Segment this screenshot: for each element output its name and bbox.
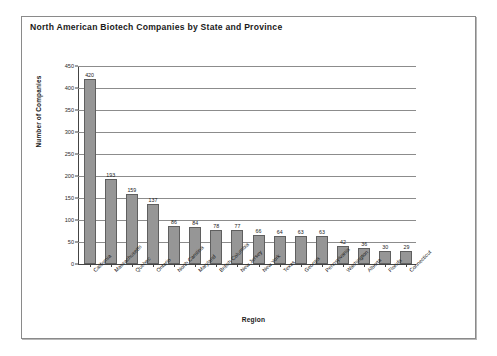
x-tick-mark bbox=[259, 264, 260, 267]
y-tick-label: 400 bbox=[65, 85, 74, 91]
bar-value-label: 420 bbox=[85, 72, 94, 78]
bar-value-label: 36 bbox=[361, 241, 367, 247]
x-tick-mark bbox=[322, 264, 323, 267]
y-tick-label: 300 bbox=[65, 129, 74, 135]
bar-slot: 86 bbox=[164, 66, 185, 264]
x-tick-mark bbox=[90, 264, 91, 267]
bar-value-label: 84 bbox=[192, 220, 198, 226]
x-tick-mark bbox=[174, 264, 175, 267]
bar-slot: 63 bbox=[311, 66, 332, 264]
bars-group: 420193159137868478776664636342363029 bbox=[79, 66, 416, 264]
x-axis-title: Region bbox=[0, 316, 497, 323]
bar-value-label: 29 bbox=[403, 244, 409, 250]
y-tick-label: 150 bbox=[65, 195, 74, 201]
bar-slot: 420 bbox=[79, 66, 100, 264]
chart-screenshot: North American Biotech Companies by Stat… bbox=[0, 0, 497, 356]
y-tick-mark bbox=[75, 198, 78, 199]
y-tick-mark bbox=[75, 110, 78, 111]
y-tick-mark bbox=[75, 66, 78, 67]
y-tick-label: 50 bbox=[68, 239, 74, 245]
bar[interactable] bbox=[295, 236, 307, 264]
chart-title: North American Biotech Companies by Stat… bbox=[30, 22, 282, 32]
y-tick-mark bbox=[75, 220, 78, 221]
y-tick-label: 350 bbox=[65, 107, 74, 113]
y-tick-mark bbox=[75, 176, 78, 177]
bar-value-label: 63 bbox=[319, 229, 325, 235]
bar-value-label: 86 bbox=[171, 219, 177, 225]
bar-slot: 30 bbox=[375, 66, 396, 264]
bar-slot: 66 bbox=[248, 66, 269, 264]
bar-slot: 137 bbox=[142, 66, 163, 264]
bar-slot: 193 bbox=[100, 66, 121, 264]
x-tick-mark bbox=[237, 264, 238, 267]
bar-slot: 42 bbox=[333, 66, 354, 264]
bar-value-label: 193 bbox=[106, 172, 115, 178]
bar-slot: 63 bbox=[290, 66, 311, 264]
bar-value-label: 30 bbox=[382, 244, 388, 250]
x-tick-mark bbox=[195, 264, 196, 267]
x-tick-mark bbox=[301, 264, 302, 267]
y-tick-mark bbox=[75, 242, 78, 243]
y-tick-mark bbox=[75, 264, 78, 265]
y-tick-label: 100 bbox=[65, 217, 74, 223]
bar-value-label: 66 bbox=[256, 228, 262, 234]
x-tick-mark bbox=[280, 264, 281, 267]
x-tick-mark bbox=[385, 264, 386, 267]
bar-slot: 159 bbox=[121, 66, 142, 264]
bar-value-label: 137 bbox=[149, 197, 158, 203]
bar-slot: 84 bbox=[185, 66, 206, 264]
bar-value-label: 159 bbox=[127, 187, 136, 193]
bar-slot: 64 bbox=[269, 66, 290, 264]
y-tick-label: 200 bbox=[65, 173, 74, 179]
bar-value-label: 78 bbox=[213, 223, 219, 229]
bar-slot: 77 bbox=[227, 66, 248, 264]
y-tick-mark bbox=[75, 88, 78, 89]
x-tick-mark bbox=[343, 264, 344, 267]
bar-value-label: 77 bbox=[234, 223, 240, 229]
y-tick-label: 0 bbox=[71, 261, 74, 267]
y-tick-label: 450 bbox=[65, 63, 74, 69]
bar-value-label: 63 bbox=[298, 229, 304, 235]
bar[interactable] bbox=[84, 79, 96, 264]
bar[interactable] bbox=[147, 204, 159, 264]
y-tick-mark bbox=[75, 132, 78, 133]
x-tick-mark bbox=[111, 264, 112, 267]
y-tick-mark bbox=[75, 154, 78, 155]
x-tick-mark bbox=[364, 264, 365, 267]
y-tick-label: 250 bbox=[65, 151, 74, 157]
bar[interactable] bbox=[105, 179, 117, 264]
x-tick-mark bbox=[406, 264, 407, 267]
plot-area: 050100150200250300350400450 420193159137… bbox=[78, 66, 416, 265]
x-tick-mark bbox=[153, 264, 154, 267]
bar-slot: 78 bbox=[206, 66, 227, 264]
x-tick-mark bbox=[132, 264, 133, 267]
bar-slot: 36 bbox=[354, 66, 375, 264]
bar-value-label: 64 bbox=[277, 229, 283, 235]
bar-value-label: 42 bbox=[340, 239, 346, 245]
x-tick-mark bbox=[216, 264, 217, 267]
y-axis-title: Number of Companies bbox=[35, 52, 42, 172]
bar-slot: 29 bbox=[396, 66, 417, 264]
